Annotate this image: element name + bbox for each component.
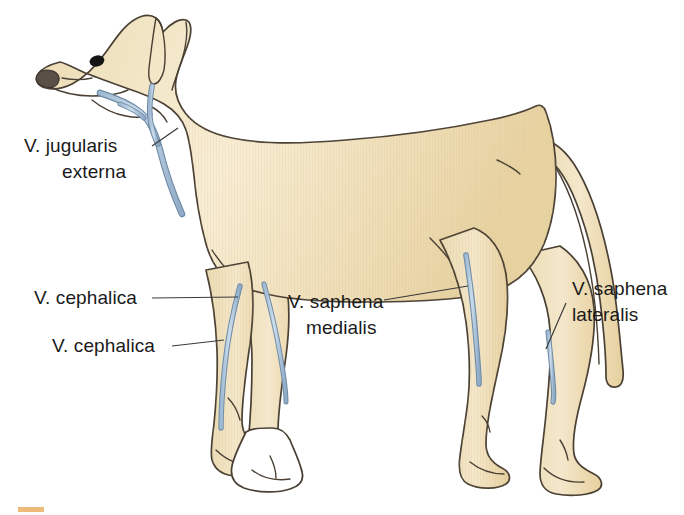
label-cephalica-upper: V. cephalica — [34, 287, 137, 308]
figure-root: V. jugularis externa V. cephalica V. cep… — [0, 0, 684, 515]
label-saphena-medialis-line1: V. saphena — [288, 291, 384, 312]
label-saphena-medialis-line2: medialis — [306, 317, 377, 338]
label-cephalica-lower-line1: V. cephalica — [52, 335, 155, 356]
label-saphena-lateralis-line2: lateralis — [572, 304, 638, 325]
label-jugularis-externa-line1: V. jugularis — [24, 135, 117, 156]
label-cephalica-upper-line1: V. cephalica — [34, 287, 137, 308]
anatomy-illustration: V. jugularis externa V. cephalica V. cep… — [0, 0, 684, 515]
caption-marker — [18, 507, 44, 512]
label-jugularis-externa-line2: externa — [62, 161, 126, 182]
label-saphena-lateralis-line1: V. saphena — [572, 278, 668, 299]
label-cephalica-lower: V. cephalica — [52, 335, 155, 356]
nose-icon — [36, 70, 59, 88]
